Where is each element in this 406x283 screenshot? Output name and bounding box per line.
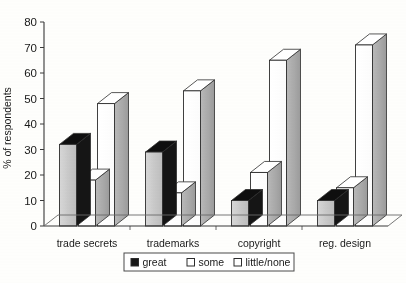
chart-legend: greatsomelittle/none xyxy=(124,253,294,271)
bar-side-face xyxy=(77,133,91,226)
x-axis-category-label: trade secrets xyxy=(57,237,118,249)
bar-front-face xyxy=(318,201,335,227)
bar-side-face xyxy=(163,141,177,226)
x-axis-category-label: trademarks xyxy=(147,237,200,249)
bar-side-face xyxy=(201,80,215,226)
legend-swatch-some xyxy=(187,259,195,267)
x-axis-category-label: copyright xyxy=(238,237,281,249)
bar-side-face xyxy=(115,93,129,226)
y-axis-tick-label: 0 xyxy=(31,220,37,232)
y-axis-tick-label: 40 xyxy=(24,118,37,130)
y-axis-tick-label: 60 xyxy=(24,67,37,79)
legend-label-great: great xyxy=(143,256,167,268)
bar-front-face xyxy=(232,201,249,227)
legend-swatch-little-none xyxy=(234,259,242,267)
legend-label-little-none: little/none xyxy=(246,256,291,268)
y-axis-tick-label: 20 xyxy=(24,169,37,181)
chart-canvas: 01020304050607080 % of respondents trade… xyxy=(0,0,406,283)
bar-chart: 01020304050607080 % of respondents trade… xyxy=(0,0,406,283)
bar-side-face xyxy=(373,34,387,226)
y-axis-tick-label: 30 xyxy=(24,144,37,156)
y-axis-tick-label: 50 xyxy=(24,93,37,105)
y-axis-tick-label: 70 xyxy=(24,42,37,54)
y-axis-tick-label: 10 xyxy=(24,195,37,207)
legend-label-some: some xyxy=(199,256,225,268)
bar-front-face xyxy=(60,144,77,226)
bar-great-trade-secrets xyxy=(60,133,91,226)
bar-side-face xyxy=(287,49,301,226)
legend-swatch-great xyxy=(131,259,139,267)
bar-great-trademarks xyxy=(146,141,177,226)
x-axis-category-label: reg. design xyxy=(319,237,371,249)
y-axis-tick-label: 80 xyxy=(24,16,37,28)
y-axis-label: % of respondents xyxy=(1,87,13,169)
